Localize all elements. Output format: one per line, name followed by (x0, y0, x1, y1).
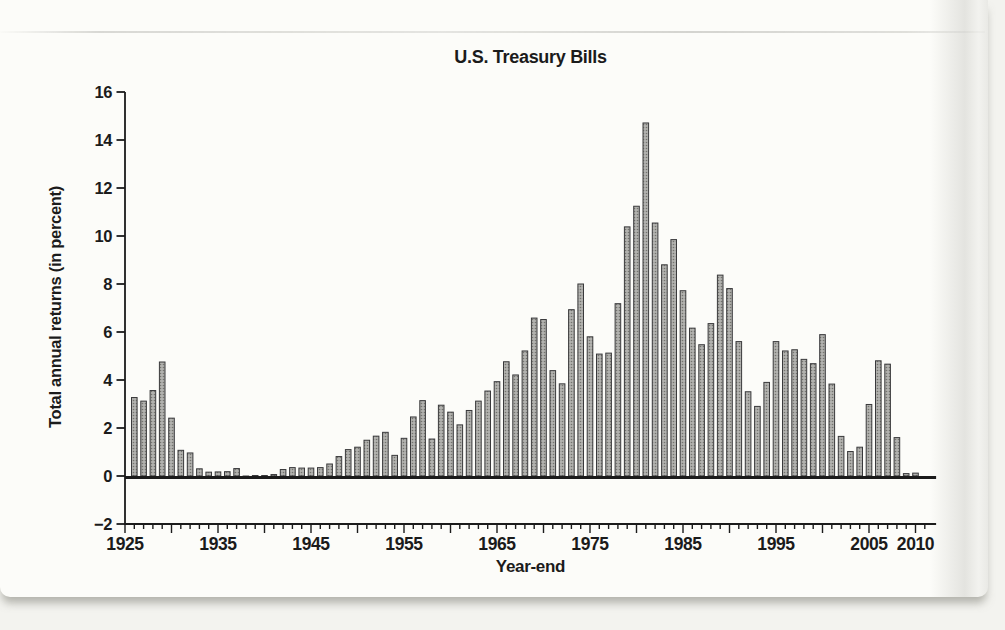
y-tick-label: 0 (103, 467, 112, 485)
bar-1962 (466, 410, 472, 476)
bar-1979 (624, 227, 630, 476)
x-axis-ticks: 1925193519451955196519751985199520052010 (106, 524, 934, 554)
bar-1943 (290, 468, 296, 476)
bar-1933 (197, 469, 203, 476)
bar-1950 (355, 447, 361, 476)
bar-1947 (327, 464, 333, 476)
bar-1998 (801, 359, 807, 476)
bar-1969 (531, 318, 537, 476)
chart-canvas: 1614121086420−21925193519451955196519751… (0, 0, 1005, 630)
bar-1940 (262, 476, 268, 477)
bar-1946 (318, 468, 324, 476)
bar-1971 (550, 371, 556, 476)
bar-1926 (132, 398, 138, 476)
bar-1958 (429, 439, 435, 476)
bar-2007 (885, 364, 891, 476)
bar-1935 (215, 472, 221, 476)
y-tick-label: −2 (94, 515, 112, 533)
bar-1932 (187, 453, 193, 476)
bar-1995 (773, 342, 779, 476)
bar-1930 (169, 418, 175, 476)
x-tick-label: 1985 (664, 534, 702, 554)
bar-1980 (634, 206, 640, 476)
bar-1977 (606, 353, 612, 476)
y-tick-label: 10 (94, 227, 112, 245)
bar-1954 (392, 455, 398, 476)
bar-1929 (159, 362, 165, 476)
bar-1981 (643, 123, 649, 476)
bars-group (132, 123, 919, 477)
bar-1937 (234, 469, 240, 476)
y-tick-label: 2 (103, 419, 112, 437)
bar-1936 (225, 472, 231, 476)
bar-2009 (903, 474, 909, 476)
x-tick-label: 1975 (571, 534, 609, 554)
bar-1944 (299, 468, 305, 476)
bar-1990 (727, 289, 733, 476)
bar-1964 (485, 391, 491, 476)
bar-1942 (280, 470, 286, 476)
bar-1996 (783, 351, 789, 476)
bar-1978 (615, 304, 621, 476)
bar-1975 (587, 337, 593, 476)
bar-1993 (755, 406, 761, 476)
y-tick-label: 14 (94, 131, 113, 149)
bar-1982 (652, 223, 658, 476)
y-tick-label: 8 (103, 275, 112, 293)
x-tick-label: 1925 (106, 534, 144, 554)
y-axis-ticks: 1614121086420−2 (94, 83, 125, 533)
y-tick-label: 6 (103, 323, 112, 341)
bar-2010 (913, 473, 919, 476)
bar-1994 (764, 382, 770, 476)
bar-2004 (857, 447, 863, 476)
bar-1941 (271, 475, 277, 476)
bar-1927 (141, 401, 147, 476)
x-tick-label: 1995 (757, 534, 795, 554)
bar-1957 (420, 401, 426, 476)
bar-1956 (411, 417, 417, 476)
bar-1968 (522, 351, 528, 476)
bar-2000 (820, 335, 826, 476)
bar-2008 (894, 438, 900, 476)
bar-1960 (448, 412, 454, 476)
x-tick-label: 1955 (385, 534, 423, 554)
y-tick-label: 4 (103, 371, 113, 389)
bar-1934 (206, 472, 212, 476)
bar-1949 (345, 450, 351, 476)
bar-1997 (792, 350, 798, 476)
bar-1988 (708, 324, 714, 476)
bar-1986 (690, 328, 696, 476)
bar-1951 (364, 440, 370, 476)
x-tick-label: 1945 (292, 534, 330, 554)
bar-1973 (569, 310, 575, 476)
bar-1972 (559, 384, 565, 476)
bar-1955 (401, 438, 407, 476)
x-tick-label: 2005 (850, 534, 888, 554)
bar-1976 (597, 354, 603, 476)
bar-2001 (829, 384, 835, 476)
x-tick-label: 1965 (478, 534, 516, 554)
bar-1992 (745, 392, 751, 476)
bar-1987 (699, 345, 705, 476)
bar-1959 (438, 405, 444, 476)
x-tick-label: 1935 (199, 534, 237, 554)
bar-1967 (513, 375, 519, 476)
bar-1970 (541, 320, 547, 476)
bar-1974 (578, 284, 584, 476)
y-tick-label: 16 (94, 83, 112, 101)
bar-1963 (476, 401, 482, 476)
bar-1945 (308, 468, 314, 476)
bar-1985 (680, 291, 686, 476)
bar-1989 (717, 275, 723, 476)
bar-1991 (736, 342, 742, 476)
bar-1965 (494, 382, 500, 476)
x-tick-label: 2010 (897, 534, 935, 554)
bar-1928 (150, 391, 156, 476)
bar-1948 (336, 457, 342, 476)
bar-2002 (838, 436, 844, 476)
bar-2005 (866, 404, 872, 476)
y-tick-label: 12 (94, 179, 112, 197)
bar-1983 (662, 265, 668, 476)
bar-1961 (457, 425, 463, 476)
bar-1952 (373, 436, 379, 476)
